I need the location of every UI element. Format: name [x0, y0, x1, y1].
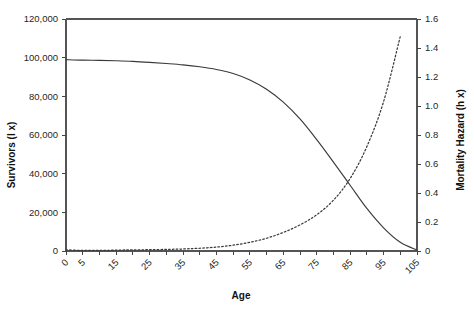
right-tick-label: 1.0: [425, 100, 438, 111]
right-axis-title-group: Mortality Hazard (h x): [455, 89, 466, 191]
left-tick-label: 120,000: [24, 13, 58, 24]
chart-svg: 020,00040,00060,00080,000100,000120,000 …: [0, 0, 474, 312]
mortality-chart: 020,00040,00060,00080,000100,000120,000 …: [0, 0, 474, 312]
left-tick-label: 100,000: [24, 52, 58, 63]
left-axis-title-group: Survivors (l x): [6, 122, 17, 189]
left-tick-label: 40,000: [29, 168, 58, 179]
right-tick-label: 0.4: [425, 187, 438, 198]
left-tick-label: 60,000: [29, 129, 58, 140]
right-tick-label: 1.6: [425, 13, 438, 24]
left-tick-label: 80,000: [29, 91, 58, 102]
left-tick-label: 0: [53, 245, 58, 256]
right-tick-label: 1.4: [425, 42, 438, 53]
x-axis-title: Age: [232, 290, 251, 301]
right-tick-label: 0.2: [425, 216, 438, 227]
chart-background: [0, 0, 474, 312]
right-axis-title: Mortality Hazard (h x): [455, 89, 466, 191]
left-tick-label: 20,000: [29, 207, 58, 218]
right-tick-label: 0.6: [425, 158, 438, 169]
right-tick-label: 1.2: [425, 71, 438, 82]
right-tick-label: 0: [425, 245, 430, 256]
right-tick-label: 0.8: [425, 129, 438, 140]
left-axis-title: Survivors (l x): [6, 122, 17, 189]
